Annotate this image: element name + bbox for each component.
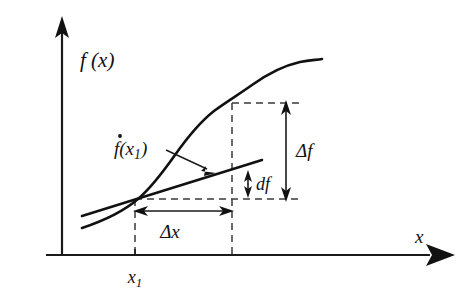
derivative-label: f(x1): [114, 138, 147, 162]
df-label: df: [256, 174, 273, 194]
x-axis-arrowhead: [426, 244, 455, 266]
x1-base-glyph: x: [127, 267, 136, 287]
derivative-subscript: 1: [134, 147, 141, 162]
delta-f-label: Δf: [295, 140, 315, 161]
y-axis-label: f (x): [80, 48, 114, 72]
x-axis-label: x: [414, 226, 424, 247]
delta-x-label: Δx: [159, 221, 180, 242]
delta-f-measure-group: Δf: [281, 100, 315, 202]
derivative-diagram: f (x) x f(x1) Δf: [0, 0, 471, 295]
x1-axis-label: x1: [127, 267, 142, 290]
tangent-pointer-group: [166, 150, 216, 176]
derivative-label-group: f(x1): [114, 134, 147, 162]
derivative-dot-accent: [118, 134, 122, 138]
figure-container: f (x) x f(x1) Δf: [0, 0, 471, 295]
tangent-line: [82, 160, 262, 216]
delta-x-measure-group: Δx: [133, 206, 234, 242]
x1-subscript: 1: [136, 275, 142, 290]
derivative-open-paren: (x: [119, 138, 134, 160]
derivative-close-paren: ): [140, 138, 147, 160]
df-measure-group: df: [244, 170, 273, 198]
